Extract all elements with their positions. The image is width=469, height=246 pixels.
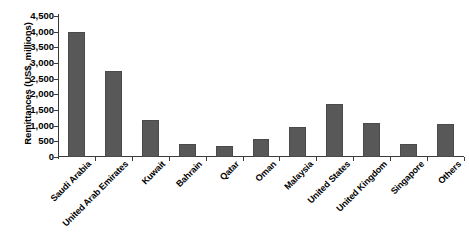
bars-layer	[58, 16, 464, 157]
x-axis-category-label: Qatar	[218, 159, 241, 182]
bar	[68, 32, 85, 157]
y-axis-tick-mark	[54, 126, 58, 127]
remittances-bar-chart: Remittances (US$, millions) 4,5004,0003,…	[0, 0, 469, 246]
y-axis-tick-label: 1,500	[16, 105, 54, 115]
y-axis-tick-label: 4,500	[16, 11, 54, 21]
bar	[105, 71, 122, 157]
y-axis-tick-label: 1,000	[16, 121, 54, 131]
bar	[179, 144, 196, 157]
x-axis-category-label: Kuwait	[140, 159, 167, 186]
y-axis-tick-mark	[54, 16, 58, 17]
bar	[363, 123, 380, 157]
bar	[142, 120, 159, 157]
y-axis-tick-mark	[54, 157, 58, 158]
bar	[326, 104, 343, 157]
y-axis-tick-label: 0	[16, 152, 54, 162]
y-axis-tick-label: 4,000	[16, 27, 54, 37]
y-axis-tick-mark	[54, 63, 58, 64]
y-axis-tick-mark	[54, 79, 58, 80]
y-axis-tick-label: 2,000	[16, 90, 54, 100]
bar	[216, 146, 233, 157]
x-axis-category-label: Bahrain	[174, 159, 204, 189]
x-axis-category-label: Others	[436, 159, 463, 186]
y-axis-tick-mark	[54, 94, 58, 95]
bar	[253, 139, 270, 157]
x-axis-category-label: Singapore	[388, 159, 425, 196]
y-axis-tick-label-group: 4,5004,0003,5003,0002,5002,0001,5001,000…	[16, 10, 54, 162]
y-axis-tick-mark	[54, 47, 58, 48]
y-axis-tick-label: 3,500	[16, 43, 54, 53]
x-axis-category-label: United Arab Emirates	[61, 159, 130, 228]
y-axis-tick-label: 500	[16, 137, 54, 147]
bar	[400, 144, 417, 157]
y-axis-tick-mark	[54, 141, 58, 142]
y-axis-tick-label: 3,000	[16, 58, 54, 68]
bar	[437, 124, 454, 157]
x-axis-category-label: Oman	[253, 159, 278, 184]
y-axis-tick-label: 2,500	[16, 74, 54, 84]
y-axis-tick-mark	[54, 32, 58, 33]
x-axis-category-label: Malaysia	[282, 159, 315, 192]
y-axis-tick-mark	[54, 110, 58, 111]
plot-area	[58, 16, 464, 157]
bar	[289, 127, 306, 157]
x-axis-category-label-group: Saudi ArabiaUnited Arab EmiratesKuwaitBa…	[58, 159, 469, 246]
